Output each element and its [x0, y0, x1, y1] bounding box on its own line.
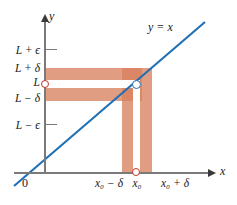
y-tick-label-l-plus-epsilon: L + ϵ — [0, 44, 40, 56]
y-axis-label: y — [49, 9, 54, 24]
y-tick-label-l-minus-epsilon: L − ϵ — [0, 119, 40, 131]
vertical-band-gap — [133, 80, 140, 173]
x-tick-label-x0-plus-delta: x₀ + δ — [150, 177, 200, 189]
x-tick-label-x0: x₀ — [122, 177, 152, 189]
y-tick-label-l-minus-delta: L − δ — [0, 92, 40, 104]
y-tick-label-l-plus-delta: L + δ — [0, 62, 40, 74]
curve-label-y-equals-x: y = x — [148, 20, 173, 35]
x-axis-label: x — [220, 164, 225, 179]
y-axis-arrow-icon — [41, 14, 49, 22]
open-circle-at-intersection — [132, 80, 141, 89]
limit-definition-figure: y x 0 y = x L + ϵ L + δ L L − δ L − ϵ x₀… — [0, 0, 237, 205]
tick-l-minus-epsilon — [46, 124, 57, 125]
x-axis — [14, 172, 210, 174]
y-tick-label-l: L — [0, 76, 40, 88]
horizontal-band-gap — [46, 80, 136, 88]
y-axis — [44, 20, 46, 173]
open-circle-at-x0 — [132, 168, 140, 176]
x-axis-arrow-icon — [208, 169, 216, 177]
tick-l-plus-epsilon — [46, 49, 57, 50]
open-circle-at-L — [41, 80, 49, 88]
origin-label: 0 — [22, 176, 28, 191]
